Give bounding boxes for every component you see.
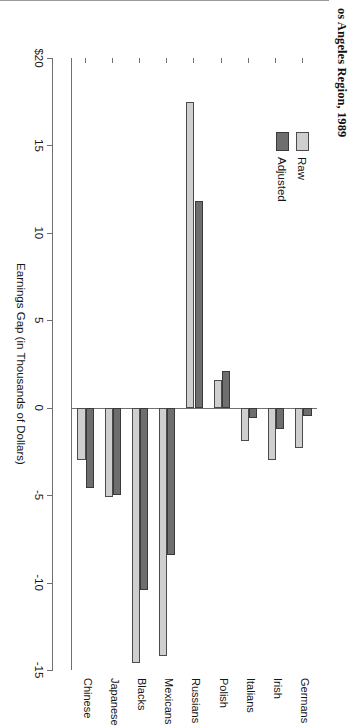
value-axis-tick <box>47 408 53 409</box>
bar-italians-adjusted <box>249 408 257 418</box>
value-axis-title: Earnings Gap (in Thousands of Dollars) <box>15 58 27 670</box>
bar-irish-adjusted <box>276 408 284 429</box>
chart-title: os Angeles Region, 1989 <box>334 8 349 137</box>
value-axis-tick <box>47 670 53 671</box>
category-label-russians: Russians <box>191 678 203 723</box>
bar-blacks-raw <box>132 408 140 663</box>
category-label-germans: Germans <box>299 678 311 723</box>
category-axis-tick <box>112 58 113 63</box>
value-axis-tick-label: 15 <box>33 139 45 152</box>
category-axis-tick <box>85 58 86 63</box>
category-axis-tick <box>248 58 249 63</box>
value-axis-tick-label: 10 <box>33 226 45 239</box>
category-label-japanese: Japanese <box>109 678 121 726</box>
bar-chinese-adjusted <box>86 408 94 488</box>
category-axis-tick <box>139 58 140 63</box>
value-axis-tick-label: -5 <box>33 490 45 500</box>
bar-germans-raw <box>295 408 303 448</box>
bar-germans-adjusted <box>303 408 311 417</box>
bar-chinese-raw <box>77 408 85 460</box>
category-label-polish: Polish <box>218 678 230 708</box>
bar-mexicans-raw <box>159 408 167 656</box>
bar-japanese-adjusted <box>113 408 121 495</box>
value-axis-tick <box>47 320 53 321</box>
value-axis-tick-label: -10 <box>33 574 45 591</box>
value-axis-line <box>52 58 53 670</box>
value-axis-tick <box>47 233 53 234</box>
category-label-blacks: Blacks <box>136 678 148 710</box>
category-axis-tick <box>275 58 276 63</box>
category-label-irish: Irish <box>272 678 284 699</box>
category-label-italians: Italians <box>245 678 257 713</box>
category-label-mexicans: Mexicans <box>163 678 175 724</box>
value-axis-tick-label: 5 <box>33 317 45 323</box>
category-axis-tick <box>302 58 303 63</box>
category-axis-tick <box>194 58 195 63</box>
category-axis-line <box>71 58 72 670</box>
bar-polish-adjusted <box>222 371 230 408</box>
value-axis-tick-label: 0 <box>33 405 45 411</box>
value-axis-tick <box>47 58 53 59</box>
bar-japanese-raw <box>105 408 113 497</box>
category-axis-tick <box>221 58 222 63</box>
page-gutter-rule <box>0 0 329 1</box>
value-axis-tick <box>47 583 53 584</box>
value-axis-tick <box>47 145 53 146</box>
bar-polish-raw <box>214 380 222 408</box>
bar-blacks-adjusted <box>140 408 148 590</box>
bar-irish-raw <box>268 408 276 460</box>
bar-russians-raw <box>186 102 194 408</box>
value-axis-tick-label: -15 <box>33 662 45 679</box>
category-axis-tick <box>166 58 167 63</box>
bar-italians-raw <box>241 408 249 441</box>
bar-mexicans-adjusted <box>167 408 175 555</box>
bar-russians-adjusted <box>195 201 203 407</box>
value-axis-tick <box>47 495 53 496</box>
plot-area <box>72 58 317 670</box>
category-label-chinese: Chinese <box>82 678 94 718</box>
value-axis-tick-label: $20 <box>33 48 45 67</box>
